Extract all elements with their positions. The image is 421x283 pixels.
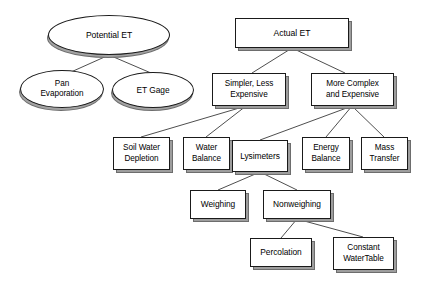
node-label-mass-transfer: Mass Transfer — [368, 143, 402, 163]
node-label-pan-evaporation: Pan Evaporation — [38, 79, 85, 99]
edge-complex-mass — [352, 106, 384, 137]
edge-simpler-waterbalance — [206, 106, 246, 137]
node-label-nonweighing: Nonweighing — [271, 199, 323, 209]
node-label-actual-et: Actual ET — [272, 28, 313, 38]
edge-actual-simpler — [252, 48, 292, 73]
node-more-complex-and-expensive[interactable]: More Complex and Expensive — [311, 73, 394, 106]
node-label-more-complex-and-expensive: More Complex and Expensive — [324, 79, 381, 99]
edge-lysimeters-nonweigh — [260, 172, 297, 190]
node-label-et-gage: ET Gage — [134, 85, 171, 95]
edge-nonweigh-constant — [297, 219, 363, 237]
edge-lysimeters-weighing — [218, 172, 260, 190]
node-percolation[interactable]: Percolation — [250, 238, 312, 267]
node-et-gage[interactable]: ET Gage — [112, 72, 194, 108]
node-energy-balance[interactable]: Energy Balance — [302, 137, 350, 170]
node-water-balance[interactable]: Water Balance — [183, 137, 230, 170]
node-label-percolation: Percolation — [258, 247, 303, 257]
edge-actual-complex — [292, 48, 345, 73]
node-potential-et[interactable]: Potential ET — [48, 15, 170, 55]
node-constant-watertable[interactable]: Constant WaterTable — [333, 237, 394, 270]
edge-simpler-soilwater — [141, 106, 246, 137]
node-label-water-balance: Water Balance — [190, 143, 223, 163]
node-label-simpler-less-expensive: Simpler, Less Expensive — [223, 79, 276, 99]
edge-nonweigh-percolation — [281, 219, 297, 238]
node-soil-water-depletion[interactable]: Soil Water Depletion — [113, 137, 170, 170]
node-nonweighing[interactable]: Nonweighing — [263, 190, 331, 219]
node-label-constant-watertable: Constant WaterTable — [341, 243, 386, 263]
node-label-potential-et: Potential ET — [84, 30, 134, 40]
et-methods-diagram: Potential ETPan EvaporationET GageActual… — [0, 0, 421, 283]
node-weighing[interactable]: Weighing — [190, 190, 246, 219]
node-label-soil-water-depletion: Soil Water Depletion — [121, 143, 162, 163]
edge-potential-pan — [71, 55, 109, 72]
node-label-weighing: Weighing — [199, 199, 237, 209]
node-label-energy-balance: Energy Balance — [309, 143, 342, 163]
node-mass-transfer[interactable]: Mass Transfer — [361, 137, 408, 170]
node-label-lysimeters: Lysimeters — [238, 151, 282, 161]
node-actual-et[interactable]: Actual ET — [235, 18, 349, 48]
edge-potential-etgage — [109, 55, 151, 73]
node-simpler-less-expensive[interactable]: Simpler, Less Expensive — [212, 73, 286, 106]
node-lysimeters[interactable]: Lysimeters — [232, 140, 288, 172]
node-pan-evaporation[interactable]: Pan Evaporation — [20, 70, 104, 108]
